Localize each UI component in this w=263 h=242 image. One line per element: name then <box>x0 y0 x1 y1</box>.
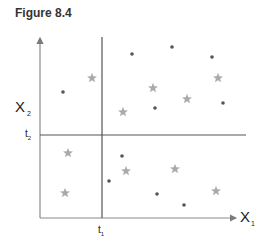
x-axis-label-sub: 1 <box>251 220 255 227</box>
star-marker <box>170 164 180 173</box>
dot-marker <box>120 154 124 158</box>
star-marker <box>211 186 221 195</box>
star-marker <box>60 188 70 197</box>
star-marker <box>121 166 131 175</box>
t2-label-sub: 2 <box>28 135 31 141</box>
t2-label: t2 <box>25 128 31 141</box>
dot-marker <box>221 101 225 105</box>
scatter-plot <box>0 0 263 242</box>
dot-marker <box>130 52 134 56</box>
y-axis-label-sub: 2 <box>27 110 31 117</box>
dot-marker <box>61 90 65 94</box>
t1-label-sub: 1 <box>101 231 104 237</box>
y-axis-label-main: X <box>15 98 25 115</box>
dot-marker <box>182 203 186 207</box>
star-marker <box>182 94 192 103</box>
star-marker <box>148 83 158 92</box>
star-marker <box>118 107 128 116</box>
dot-marker <box>107 179 111 183</box>
dot-marker <box>170 45 174 49</box>
star-marker <box>87 73 97 82</box>
dot-marker <box>153 106 157 110</box>
t1-label: t1 <box>98 224 104 237</box>
x-axis-label: X1 <box>240 208 255 227</box>
y-axis-label: X2 <box>15 98 31 117</box>
dot-marker <box>210 55 214 59</box>
x-axis-label-main: X <box>240 208 250 225</box>
data-points <box>60 45 225 207</box>
dot-marker <box>155 192 159 196</box>
star-marker <box>63 148 73 157</box>
star-marker <box>213 73 223 82</box>
